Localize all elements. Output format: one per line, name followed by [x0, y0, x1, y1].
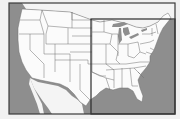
us-map: [0, 0, 180, 119]
